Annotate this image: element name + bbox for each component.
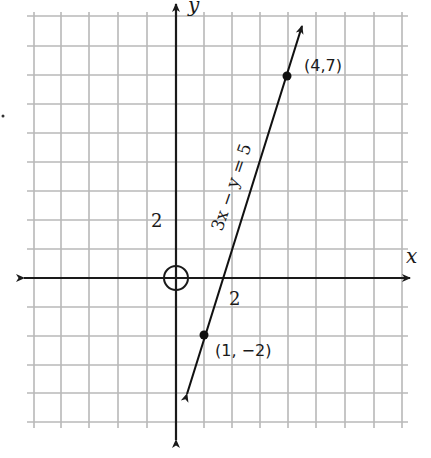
point-4-7	[283, 72, 292, 81]
coordinate-graph: y x 2 2 (4,7) (1, −2) 3x − y = 5	[0, 0, 431, 458]
y-tick-label: 2	[151, 210, 162, 231]
point-label-4-7: (4,7)	[304, 56, 342, 75]
y-axis-label: y	[187, 0, 200, 17]
x-axis-label: x	[406, 244, 417, 268]
stray-dot	[2, 115, 5, 118]
point-1-neg2	[200, 331, 209, 340]
x-tick-label: 2	[229, 288, 240, 309]
point-label-1-neg2: (1, −2)	[215, 341, 271, 360]
